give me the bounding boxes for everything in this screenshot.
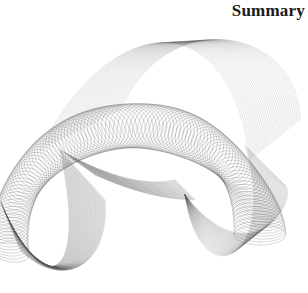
band-ring — [157, 105, 215, 165]
front-strand — [0, 150, 69, 266]
front-strand — [4, 159, 75, 267]
band-ring — [161, 107, 219, 167]
ribbon-back-strands — [40, 39, 300, 160]
page-heading: Summary — [232, 1, 305, 21]
band-ring — [9, 142, 63, 195]
band-ring — [44, 111, 103, 169]
band-ring — [194, 128, 253, 187]
wireframe-ribbon-illustration — [0, 0, 308, 293]
band-ring — [7, 145, 60, 197]
